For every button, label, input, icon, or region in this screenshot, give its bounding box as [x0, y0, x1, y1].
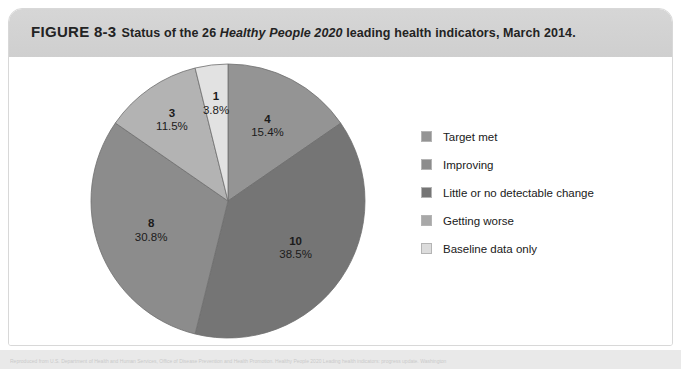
pie-slice-percent: 38.5%: [256, 248, 336, 262]
source-citation: Reproduced from U.S. Department of Healt…: [10, 358, 670, 364]
legend-item[interactable]: Target met: [421, 129, 651, 144]
legend-item-label: Little or no detectable change: [443, 187, 594, 199]
pie-slice-count: 8: [111, 217, 191, 231]
legend-swatch-icon: [421, 187, 432, 198]
figure-frame: FIGURE 8-3Status of the 26 Healthy Peopl…: [8, 8, 673, 346]
source-strip: Reproduced from U.S. Department of Healt…: [0, 350, 681, 369]
legend-item[interactable]: Little or no detectable change: [421, 185, 651, 200]
legend-swatch-icon: [421, 215, 432, 226]
pie-slice-percent: 11.5%: [132, 120, 212, 134]
figure-caption-part2: leading health indicators, March 2014.: [343, 26, 576, 40]
legend-item[interactable]: Improving: [421, 157, 651, 172]
legend-item-label: Improving: [443, 159, 494, 171]
legend-swatch-icon: [421, 159, 432, 170]
pie-slice-percent: 3.8%: [176, 104, 256, 118]
figure-header-bar: FIGURE 8-3Status of the 26 Healthy Peopl…: [9, 9, 672, 57]
pie-slice-count: 1: [176, 90, 256, 104]
legend-swatch-icon: [421, 243, 432, 254]
chart-legend: Target metImprovingLittle or no detectab…: [421, 129, 651, 269]
legend-swatch-icon: [421, 131, 432, 142]
pie-slice-label: 13.8%: [176, 90, 256, 117]
pie-slice-percent: 15.4%: [227, 126, 307, 140]
figure-number-label: FIGURE 8-3: [31, 23, 117, 40]
pie-slice-label: 1038.5%: [256, 235, 336, 262]
legend-item-label: Target met: [443, 131, 497, 143]
pie-slice-count: 10: [256, 235, 336, 249]
pie-slice-percent: 30.8%: [111, 231, 191, 245]
figure-body: 415.4%1038.5%830.8%311.5%13.8% Target me…: [9, 57, 672, 346]
pie-chart: 415.4%1038.5%830.8%311.5%13.8%: [87, 61, 377, 341]
legend-item[interactable]: Getting worse: [421, 213, 651, 228]
legend-item[interactable]: Baseline data only: [421, 241, 651, 256]
figure-caption: FIGURE 8-3Status of the 26 Healthy Peopl…: [31, 23, 576, 40]
legend-item-label: Baseline data only: [443, 243, 537, 255]
legend-item-label: Getting worse: [443, 215, 514, 227]
figure-caption-part1: Status of the 26: [122, 26, 220, 40]
pie-slice-label: 830.8%: [111, 217, 191, 244]
figure-caption-italic: Healthy People 2020: [220, 26, 343, 40]
